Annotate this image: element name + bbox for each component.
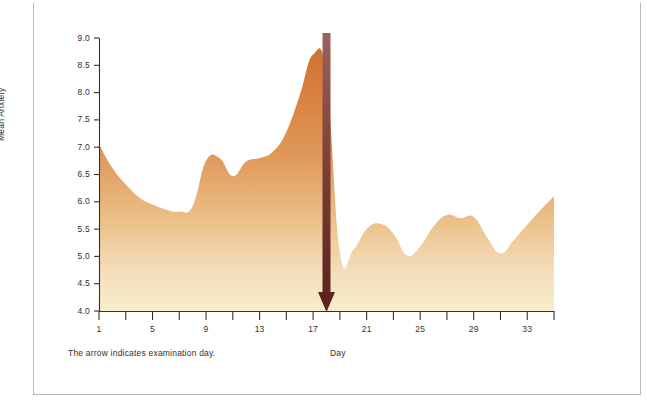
x-tick-label: 1 xyxy=(85,324,113,334)
figure-caption: The arrow indicates examination day. xyxy=(68,348,215,358)
x-axis-title: Day xyxy=(330,348,346,358)
y-tick-label: 5.0 xyxy=(62,251,90,261)
y-tick-label: 7.0 xyxy=(62,142,90,152)
x-tick-label: 29 xyxy=(460,324,488,334)
x-tick-label: 33 xyxy=(513,324,541,334)
x-tick-label: 25 xyxy=(406,324,434,334)
y-tick-label: 9.0 xyxy=(62,33,90,43)
x-tick-label: 5 xyxy=(139,324,167,334)
x-tick-label: 17 xyxy=(299,324,327,334)
y-tick-label: 4.0 xyxy=(62,306,90,316)
y-tick-label: 4.5 xyxy=(62,278,90,288)
y-tick-label: 6.0 xyxy=(62,196,90,206)
y-axis-title: Mean Anxiety xyxy=(0,21,6,141)
y-tick-label: 7.5 xyxy=(62,114,90,124)
x-axis-ticks-major xyxy=(99,311,527,320)
y-tick-label: 8.5 xyxy=(62,60,90,70)
y-tick-label: 5.5 xyxy=(62,224,90,234)
x-axis-ticks-minor xyxy=(126,311,554,320)
x-tick-label: 21 xyxy=(353,324,381,334)
y-axis-ticks xyxy=(94,38,99,311)
y-tick-label: 6.5 xyxy=(62,169,90,179)
x-tick-label: 9 xyxy=(192,324,220,334)
y-tick-label: 8.0 xyxy=(62,87,90,97)
x-tick-label: 13 xyxy=(246,324,274,334)
